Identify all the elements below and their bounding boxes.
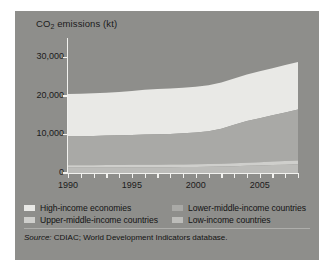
legend-label: Upper-middle-income countries bbox=[40, 215, 158, 225]
y-tick-mark bbox=[63, 134, 67, 135]
legend-swatch bbox=[24, 205, 35, 211]
source-text: CDIAC; World Development Indicators data… bbox=[52, 233, 228, 242]
legend-item[interactable]: Low-income countries bbox=[172, 215, 310, 225]
x-tick-mark bbox=[209, 174, 210, 178]
legend-label: Lower-middle-income countries bbox=[188, 203, 306, 213]
y-tick-label: 20,000 bbox=[36, 90, 64, 100]
legend-swatch bbox=[172, 217, 183, 223]
source-label: Source: bbox=[24, 233, 52, 242]
y-tick-mark bbox=[63, 172, 67, 173]
x-tick-mark bbox=[68, 174, 69, 178]
x-tick-mark bbox=[260, 174, 261, 178]
x-tick-mark bbox=[81, 174, 82, 178]
y-tick-mark bbox=[63, 95, 67, 96]
x-tick-label: 2000 bbox=[186, 180, 206, 190]
x-tick-label: 1990 bbox=[58, 180, 78, 190]
legend: High-income economiesLower-middle-income… bbox=[24, 203, 310, 227]
y-tick-label: 10,000 bbox=[36, 128, 64, 138]
x-tick-mark bbox=[170, 174, 171, 178]
x-tick-mark bbox=[247, 174, 248, 178]
x-tick-mark bbox=[145, 174, 146, 178]
x-tick-mark bbox=[94, 174, 95, 178]
figure: CO2 emissions (kt) 010,00020,00030,000 1… bbox=[0, 0, 334, 271]
y-axis-labels: 010,00020,00030,000 bbox=[18, 0, 64, 271]
x-tick-mark bbox=[106, 174, 107, 178]
x-tick-label: 2005 bbox=[250, 180, 270, 190]
legend-label: Low-income countries bbox=[188, 215, 271, 225]
legend-swatch bbox=[172, 205, 183, 211]
x-tick-mark bbox=[132, 174, 133, 178]
x-tick-mark bbox=[272, 174, 273, 178]
y-axis-line bbox=[67, 38, 68, 173]
x-tick-mark bbox=[285, 174, 286, 178]
y-tick-mark bbox=[63, 57, 67, 58]
y-tick-label: 30,000 bbox=[36, 51, 64, 61]
x-tick-label: 1995 bbox=[122, 180, 142, 190]
plot-area bbox=[68, 38, 298, 173]
legend-swatch bbox=[24, 217, 35, 223]
x-tick-mark bbox=[221, 174, 222, 178]
stacked-area-svg bbox=[68, 38, 298, 173]
x-tick-mark bbox=[196, 174, 197, 178]
legend-row: Upper-middle-income countriesLow-income … bbox=[24, 215, 310, 225]
x-tick-mark bbox=[234, 174, 235, 178]
legend-label: High-income economies bbox=[40, 203, 131, 213]
legend-item[interactable]: Lower-middle-income countries bbox=[172, 203, 310, 213]
legend-item[interactable]: High-income economies bbox=[24, 203, 172, 213]
legend-item[interactable]: Upper-middle-income countries bbox=[24, 215, 172, 225]
x-tick-mark bbox=[183, 174, 184, 178]
source-divider bbox=[24, 228, 310, 229]
x-tick-mark bbox=[157, 174, 158, 178]
legend-row: High-income economiesLower-middle-income… bbox=[24, 203, 310, 213]
x-tick-mark bbox=[119, 174, 120, 178]
source-note: Source: CDIAC; World Development Indicat… bbox=[24, 233, 228, 242]
x-tick-mark bbox=[298, 174, 299, 178]
